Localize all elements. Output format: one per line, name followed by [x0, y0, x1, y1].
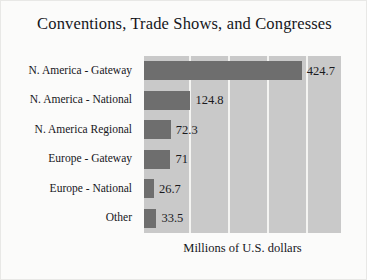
bar-value-label: 71: [175, 153, 188, 166]
bar-row[interactable]: 124.8: [144, 91, 341, 110]
category-label: N. America - National: [30, 94, 132, 106]
bar-value-label: 124.8: [195, 94, 223, 107]
chart-figure: Conventions, Trade Shows, and Congresses…: [0, 0, 367, 280]
bar-row[interactable]: 26.7: [144, 179, 341, 198]
bar[interactable]: [144, 209, 156, 228]
category-label: Europe - National: [50, 183, 132, 195]
bar[interactable]: [144, 179, 154, 198]
bar-row[interactable]: 424.7: [144, 61, 341, 80]
chart-title: Conventions, Trade Shows, and Congresses: [1, 14, 367, 34]
axis-caption: Millions of U.S. dollars: [144, 241, 341, 256]
plot-wrapper: 424.7124.872.37126.733.5: [144, 56, 341, 233]
bar-value-label: 33.5: [161, 212, 183, 225]
bar-value-label: 26.7: [159, 183, 181, 196]
bar[interactable]: [144, 91, 190, 110]
category-label: Europe - Gateway: [48, 153, 132, 165]
category-label: N. America - Gateway: [29, 65, 132, 77]
bar-series: 424.7124.872.37126.733.5: [144, 56, 341, 233]
bar-row[interactable]: 72.3: [144, 120, 341, 139]
bar[interactable]: [144, 150, 170, 169]
bar-row[interactable]: 33.5: [144, 209, 341, 228]
category-axis-labels: N. America - GatewayN. America - Nationa…: [1, 56, 138, 233]
category-label: N. America Regional: [35, 124, 132, 136]
bar-value-label: 424.7: [307, 65, 335, 78]
bar-row[interactable]: 71: [144, 150, 341, 169]
bar[interactable]: [144, 61, 302, 80]
category-label: Other: [106, 212, 132, 224]
bar[interactable]: [144, 120, 171, 139]
bar-value-label: 72.3: [176, 124, 198, 137]
